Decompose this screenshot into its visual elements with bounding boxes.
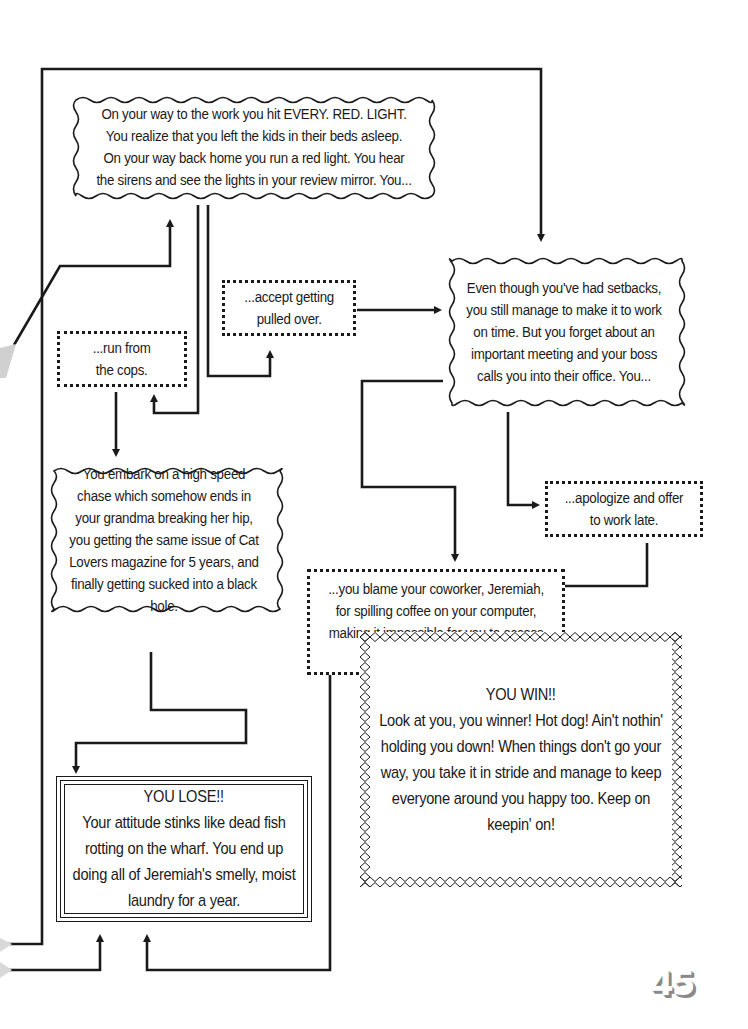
node-run-from-cops-text: ...run from the cops. bbox=[93, 337, 151, 381]
connector-margin-to-lose bbox=[0, 938, 100, 970]
connector-margin-to-start bbox=[14, 223, 170, 345]
node-accept-pulled-over-text: ...accept getting pulled over. bbox=[244, 286, 334, 330]
node-high-speed-chase-text: You embark on a high speed chase which s… bbox=[64, 463, 264, 617]
you-win-text: Look at you, you winner! Hot dog! Ain't … bbox=[379, 708, 663, 838]
node-you-lose: YOU LOSE!! Your attitude stinks like dea… bbox=[64, 784, 304, 914]
you-win-title: YOU WIN!! bbox=[486, 682, 556, 708]
node-apologize-text: ...apologize and offer to work late. bbox=[565, 487, 684, 531]
connector-chase-to-lose bbox=[76, 652, 246, 770]
node-accept-pulled-over: ...accept getting pulled over. bbox=[222, 280, 356, 336]
node-made-it-to-work-text: Even though you've had setbacks, you sti… bbox=[463, 277, 666, 387]
node-apologize: ...apologize and offer to work late. bbox=[545, 481, 703, 537]
page-number: 45 bbox=[650, 963, 693, 1003]
margin-mark bbox=[0, 962, 12, 978]
node-made-it-to-work: Even though you've had setbacks, you sti… bbox=[446, 255, 682, 409]
node-start-text: On your way to the work you hit EVERY. R… bbox=[96, 103, 412, 191]
node-you-win: YOU WIN!! Look at you, you winner! Hot d… bbox=[360, 632, 682, 887]
connector-work-to-apologize bbox=[508, 412, 536, 505]
node-run-from-cops: ...run from the cops. bbox=[57, 331, 187, 387]
you-lose-text: Your attitude stinks like dead fish rott… bbox=[68, 810, 300, 914]
margin-mark bbox=[0, 344, 16, 378]
you-lose-title: YOU LOSE!! bbox=[144, 784, 224, 810]
connector-work-to-blame bbox=[362, 381, 455, 558]
node-high-speed-chase: You embark on a high speed chase which s… bbox=[48, 465, 280, 615]
margin-mark bbox=[0, 938, 12, 952]
node-start: On your way to the work you hit EVERY. R… bbox=[70, 94, 438, 200]
